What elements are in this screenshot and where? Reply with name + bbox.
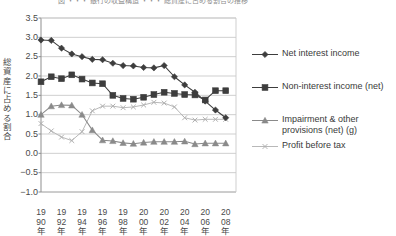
y-axis-tick: 1.0 <box>4 110 38 119</box>
y-axis-tick: 3.5 <box>4 14 38 23</box>
y-axis-tick: 1.5 <box>4 91 38 100</box>
x-axis-tick: 1994年 <box>77 208 88 236</box>
y-axis-tick: 3.0 <box>4 33 38 42</box>
y-axis-tick: −0.5 <box>4 168 38 177</box>
y-axis-tick: 2.5 <box>4 52 38 61</box>
chart-figure: 図 ・・・ 銀行の収益構造 ・・・ 総資産に占める割合の推移 総資産に占める割合… <box>0 0 396 236</box>
x-axis-tick: 1998年 <box>118 208 129 236</box>
legend-square-icon <box>252 82 278 93</box>
x-axis-tick: 1992年 <box>56 208 67 236</box>
x-axis-tick: 2000年 <box>138 208 149 236</box>
x-axis-tick: 1996年 <box>97 208 108 236</box>
legend-triangle-icon <box>252 115 278 126</box>
legend-diamond-icon <box>252 49 278 60</box>
legend-item[interactable]: Non-interest income (net) <box>252 81 384 93</box>
x-axis-tick: 2008年 <box>220 208 231 236</box>
x-axis-tick-labels: 1990年1992年1994年1996年1998年2000年2002年2004年… <box>0 186 260 236</box>
figure-title: 図 ・・・ 銀行の収益構造 ・・・ 総資産に占める割合の推移 <box>58 0 388 5</box>
y-axis-tick: 0.0 <box>4 149 38 158</box>
y-axis-tick: 2.0 <box>4 72 38 81</box>
legend-cross-icon <box>252 141 278 152</box>
legend-item[interactable]: Profit before tax <box>252 140 346 152</box>
legend-item[interactable]: Impairment & other provisions (net) (g) <box>252 114 359 135</box>
x-axis-tick: 2006年 <box>200 208 211 236</box>
x-axis-tick: 2004年 <box>179 208 190 236</box>
x-axis-tick: 1990年 <box>36 208 47 236</box>
legend-item-label: Impairment & other provisions (net) (g) <box>282 114 359 135</box>
legend-item[interactable]: Net interest income <box>252 48 360 60</box>
x-axis-tick: 2002年 <box>159 208 170 236</box>
legend-item-label: Non-interest income (net) <box>282 81 384 92</box>
legend-item-label: Profit before tax <box>282 140 346 151</box>
legend-item-label: Net interest income <box>282 48 360 59</box>
y-axis-tick: 0.5 <box>4 130 38 139</box>
